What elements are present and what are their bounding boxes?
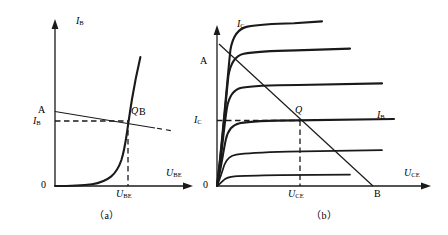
panel-a-x-value-label: UBE	[116, 189, 132, 200]
panel-a-load-line-end-label: B	[139, 107, 146, 117]
panel-b-output-curve-1	[217, 175, 350, 186]
panel-b-y-axis-label: IC	[237, 19, 245, 30]
panel-a-load-line-tail	[157, 128, 172, 131]
panel-b-family-label: IB	[377, 110, 385, 121]
panel-b-output-curve-6	[217, 21, 322, 186]
panel-a-origin-label: 0	[41, 180, 46, 190]
panel-b-output-curve-5	[217, 49, 350, 186]
panel-b-load-line-end-label: B	[374, 189, 381, 199]
panel-a-group	[52, 19, 193, 189]
panel-b-x-value-label: UCE	[288, 189, 304, 200]
panel-b-origin-label: 0	[203, 180, 208, 190]
panel-a-q-point-label: Q	[131, 106, 138, 116]
panel-a-y-value-label: IB	[33, 116, 41, 127]
panel-b-group	[214, 21, 431, 189]
panel-b-load-line-start-label: A	[200, 56, 207, 66]
panel-a-load-line-start-label: A	[38, 105, 45, 115]
panel-b-x-axis-label: UCE	[404, 168, 420, 179]
panel-a-y-axis-label: IB	[76, 16, 84, 27]
panel-b-x-axis	[217, 183, 431, 190]
panel-b-q-point-label: Q	[295, 105, 302, 115]
panel-a-x-axis-label: UBE	[166, 168, 182, 179]
panel-b-y-value-label: IC	[194, 115, 202, 126]
panel-a-y-axis	[52, 19, 59, 186]
panel-b-caption: （b）	[311, 211, 338, 221]
panel-a-caption: （a）	[94, 211, 120, 221]
panel-b-load-line	[219, 44, 373, 186]
